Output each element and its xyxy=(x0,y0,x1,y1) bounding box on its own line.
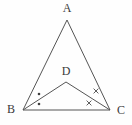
angle-mark-dot-dbc xyxy=(38,103,41,106)
angle-mark-cross-dcb xyxy=(87,101,92,106)
vertex-label-b: B xyxy=(7,102,15,116)
geometry-figure: A B C D xyxy=(0,0,132,125)
vertex-label-a: A xyxy=(63,1,72,15)
vertex-label-d: D xyxy=(62,64,71,78)
segment-ab xyxy=(23,20,67,110)
vertex-label-c: C xyxy=(117,103,125,117)
angle-mark-dot-abd xyxy=(38,93,41,96)
geometry-canvas: A B C D xyxy=(0,0,132,125)
angle-mark-cross-acd xyxy=(94,89,99,94)
